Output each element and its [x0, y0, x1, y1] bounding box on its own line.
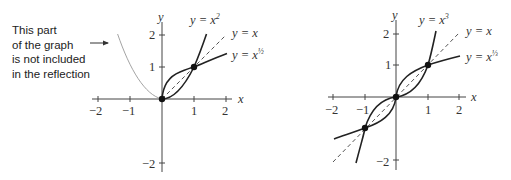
- x-axis-label: x: [237, 92, 244, 106]
- point-origin: [159, 96, 165, 102]
- tick-label: −2: [142, 157, 155, 171]
- tick-label: −1: [122, 104, 135, 118]
- label-y-x3: y = x3: [417, 12, 449, 27]
- tick-label: 2: [456, 103, 462, 117]
- tick-label: −2: [89, 104, 102, 118]
- point-1-1: [425, 62, 431, 68]
- tick-label: −2: [376, 155, 389, 169]
- tick-label: 1: [149, 60, 155, 74]
- tick-label: 1: [191, 104, 197, 118]
- point-origin: [393, 94, 399, 100]
- tick-label: 2: [149, 28, 155, 42]
- tick-label: 2: [222, 104, 228, 118]
- label-y-x: y = x: [230, 26, 258, 40]
- right-graph: y x −2 −1 1 2 2 1 −2 y = x3 y = x y = x⅓: [325, 8, 498, 170]
- tick-label: 1: [425, 103, 431, 117]
- curve-x-squared: [162, 34, 207, 99]
- excluded-curve-x2-negative: [118, 34, 162, 99]
- point-1-1: [191, 64, 197, 70]
- tick-label: −1: [356, 103, 369, 117]
- y-axis-label: y: [156, 10, 164, 24]
- tick-label: 1: [385, 58, 391, 72]
- label-y-x2: y = x2: [188, 12, 220, 27]
- tick-label: −2: [325, 103, 338, 117]
- curve-sqrt-x: [162, 54, 227, 100]
- label-y-x: y = x: [464, 24, 492, 38]
- excluded-curve: [116, 10, 162, 99]
- charts: y x −2 −1 1 2 2 1 −2 y = x2 y = x y = x½…: [0, 0, 511, 180]
- tick-label: 2: [383, 27, 389, 41]
- point-neg1-neg1: [362, 125, 368, 131]
- left-graph: y x −2 −1 1 2 2 1 −2 y = x2 y = x y = x½: [89, 10, 264, 172]
- label-y-cbrt-x: y = x⅓: [464, 49, 498, 64]
- x-axis-label: x: [470, 90, 477, 104]
- label-y-sqrt-x: y = x½: [230, 47, 264, 62]
- y-axis-label: y: [390, 8, 398, 22]
